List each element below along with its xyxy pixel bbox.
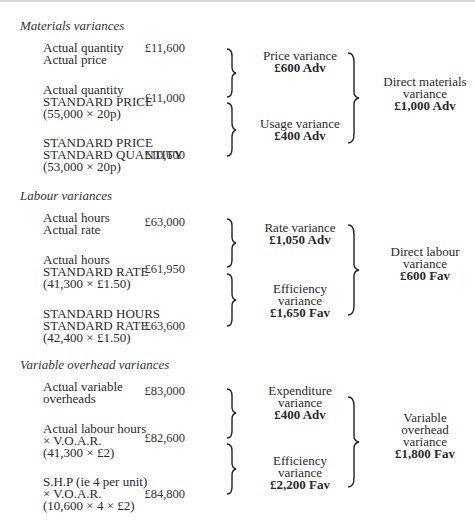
brace-icon xyxy=(226,48,238,98)
brace-icon xyxy=(226,388,238,439)
top-divider xyxy=(0,0,475,2)
section-title-variable-overhead: Variable overhead variances xyxy=(20,357,169,373)
overhead-row-actual: Actual variable overheads xyxy=(43,381,123,405)
labour-efficiency-variance: Efficiency variance £1,650 Fav xyxy=(250,283,350,319)
brace-icon xyxy=(226,443,238,495)
labour-row-standard-hours: STANDARD HOURS STANDARD RATE (42,400 × £… xyxy=(43,308,160,344)
brace-icon xyxy=(226,102,238,157)
overhead-expenditure-variance: Expenditure variance £400 Adv xyxy=(250,385,350,421)
overhead-row-shp: S.H.P (ie 4 per unit) × V.O.A.R. (10,600… xyxy=(43,476,147,512)
brace-icon xyxy=(226,218,238,268)
section-title-labour: Labour variances xyxy=(20,188,112,204)
labour-amount-standard-rate: £61,950 xyxy=(144,262,185,277)
brace-icon xyxy=(347,396,361,488)
materials-row-standard-price: Actual quantity STANDARD PRICE (55,000 ×… xyxy=(43,84,153,120)
overhead-amount-actual: £83,000 xyxy=(144,384,185,399)
overhead-row-actual-labour-hours: Actual labour hours × V.O.A.R. (41,300 ×… xyxy=(43,423,146,459)
direct-materials-variance: Direct materials variance £1,000 Adv xyxy=(375,76,475,112)
direct-labour-variance: Direct labour variance £600 Fav xyxy=(375,246,475,282)
brace-icon xyxy=(347,224,361,316)
materials-price-variance: Price variance £600 Adv xyxy=(250,50,350,74)
materials-row-actual: Actual quantity Actual price xyxy=(43,42,124,66)
materials-usage-variance: Usage variance £400 Adv xyxy=(250,118,350,142)
overhead-efficiency-variance: Efficiency variance £2,200 Fav xyxy=(250,455,350,491)
overhead-amount-actual-labour-hours: £82,600 xyxy=(144,431,185,446)
materials-amount-standard-quantity: £10,600 xyxy=(144,148,185,163)
labour-amount-actual: £63,000 xyxy=(144,215,185,230)
section-title-materials: Materials variances xyxy=(20,18,124,34)
brace-icon xyxy=(226,273,238,327)
labour-row-standard-rate: Actual hours STANDARD RATE (41,300 × £1.… xyxy=(43,254,149,290)
materials-amount-standard-price: £11,000 xyxy=(145,91,185,106)
overhead-amount-shp: £84,800 xyxy=(144,487,185,502)
labour-row-actual: Actual hours Actual rate xyxy=(43,212,110,236)
labour-amount-standard-hours: £63,600 xyxy=(144,319,185,334)
labour-rate-variance: Rate variance £1,050 Adv xyxy=(250,222,350,246)
brace-icon xyxy=(347,52,361,144)
variable-overhead-variance: Variable overhead variance £1,800 Fav xyxy=(375,412,475,460)
materials-amount-actual: £11,600 xyxy=(145,41,185,56)
